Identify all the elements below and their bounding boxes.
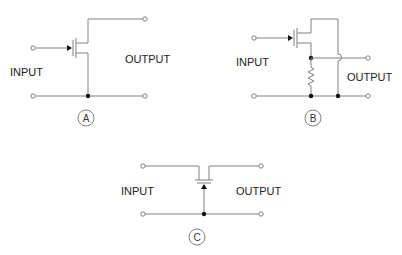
output-terminal-top: [143, 17, 147, 21]
gate-arrow-icon: [201, 184, 207, 189]
circuit-b: INPUT OUTPUT B: [236, 19, 393, 126]
output-terminal-bottom: [366, 94, 370, 98]
resistor-icon: [308, 67, 314, 86]
output-terminal-top: [366, 56, 370, 60]
junction-dot: [336, 94, 340, 98]
junction-dot: [202, 212, 206, 216]
source-wire: [145, 166, 199, 180]
input-label: INPUT: [236, 56, 269, 68]
output-terminal-top: [259, 164, 263, 168]
output-terminal-bottom: [143, 94, 147, 98]
input-terminal-bottom: [31, 94, 35, 98]
circuit-diagram: INPUT OUTPUT A INPUT: [0, 0, 402, 255]
circuit-a: INPUT OUTPUT A: [10, 17, 171, 126]
source-wire: [76, 53, 88, 96]
input-terminal-top: [31, 46, 35, 50]
input-terminal-bottom: [252, 94, 256, 98]
source-wire: [297, 43, 311, 58]
badge-label: C: [193, 232, 200, 243]
junction-dot: [309, 94, 313, 98]
gate-arrow-icon: [67, 45, 72, 51]
input-terminal-top: [141, 164, 145, 168]
drain-wire: [76, 19, 143, 43]
drain-wire: [209, 166, 259, 180]
badge-label: B: [310, 113, 317, 124]
output-label: OUTPUT: [236, 185, 282, 197]
input-terminal-bottom: [141, 212, 145, 216]
input-terminal-top: [252, 36, 256, 40]
input-label: INPUT: [121, 185, 154, 197]
gate-arrow-icon: [288, 35, 293, 41]
junction-dot: [86, 94, 90, 98]
drain-wire-upper: [297, 19, 338, 54]
badge-label: A: [83, 113, 90, 124]
input-label: INPUT: [10, 66, 43, 78]
output-terminal-bottom: [259, 212, 263, 216]
circuit-c: INPUT OUTPUT C: [121, 164, 282, 245]
output-label: OUTPUT: [347, 71, 393, 83]
output-label: OUTPUT: [125, 53, 171, 65]
